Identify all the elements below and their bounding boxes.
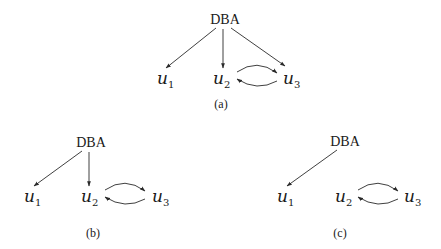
- user-node-u1: u1: [24, 186, 41, 208]
- edge-u2-u3: [358, 183, 398, 191]
- svg-text:u2: u2: [335, 186, 352, 208]
- diagram-c: DBA u1 u2 u3 (c): [277, 134, 421, 240]
- edge-u3-u2: [105, 197, 145, 204]
- caption-c: (c): [333, 226, 346, 240]
- dba-node: DBA: [210, 12, 240, 27]
- user-node-u2: u2: [335, 186, 352, 208]
- svg-text:u3: u3: [152, 186, 169, 208]
- dba-node: DBA: [76, 135, 106, 150]
- user-node-u3: u3: [404, 186, 421, 208]
- diagram-b: DBA u1 u2 u3 (b): [24, 135, 169, 240]
- edge-dba-u1: [287, 150, 337, 186]
- user-node-u3: u3: [283, 68, 300, 90]
- authorization-graphs: DBA u1 u2 u3 (a) DBA u1 u2 u3: [0, 0, 441, 249]
- edge-u3-u2: [237, 79, 277, 86]
- edge-u3-u2: [358, 197, 398, 204]
- user-node-u1: u1: [277, 186, 294, 208]
- svg-text:u1: u1: [24, 186, 41, 208]
- svg-text:u2: u2: [81, 186, 98, 208]
- caption-b: (b): [86, 226, 100, 240]
- svg-text:u3: u3: [283, 68, 300, 90]
- diagram-a: DBA u1 u2 u3 (a): [157, 12, 300, 111]
- dba-node: DBA: [330, 134, 360, 149]
- user-node-u3: u3: [152, 186, 169, 208]
- edge-u2-u3: [105, 183, 145, 191]
- edge-u2-u3: [237, 65, 277, 73]
- edge-dba-u1: [166, 28, 216, 68]
- caption-a: (a): [214, 97, 227, 111]
- svg-text:u3: u3: [404, 186, 421, 208]
- svg-text:u1: u1: [277, 186, 294, 208]
- edge-dba-u3: [231, 28, 285, 66]
- svg-text:u1: u1: [157, 68, 174, 90]
- user-node-u1: u1: [157, 68, 174, 90]
- user-node-u2: u2: [81, 186, 98, 208]
- user-node-u2: u2: [213, 68, 230, 90]
- svg-text:u2: u2: [213, 68, 230, 90]
- edge-dba-u1: [34, 151, 82, 186]
